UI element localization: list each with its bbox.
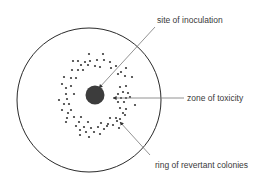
diagram-canvas: site of inoculation zone of toxicity rin… [0,0,267,182]
inoculation-site [86,86,105,105]
label-ring-of-revertant-colonies: ring of revertant colonies [155,160,248,170]
label-site-of-inoculation: site of inoculation [157,15,223,25]
label-zone-of-toxicity: zone of toxicity [187,93,244,103]
leader-revertants [120,122,150,155]
